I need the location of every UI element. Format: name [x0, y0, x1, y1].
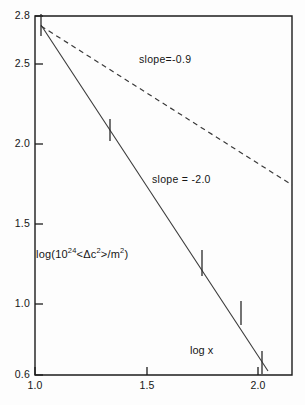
- annotation-slope-reference: slope=-0.9: [139, 53, 191, 65]
- axis-frame: [35, 16, 292, 375]
- y-tick-label-2.5: 2.5: [2, 57, 30, 69]
- y-axis-title-suffix: ): [124, 248, 128, 260]
- x-tick-label-2.0: 2.0: [244, 379, 272, 391]
- x-axis-title: log x: [190, 344, 213, 356]
- x-tick-label-1.0: 1.0: [21, 379, 49, 391]
- x-axis-ticks: [35, 367, 258, 375]
- y-axis-ticks: [35, 16, 43, 375]
- x-tick-label-1.5: 1.5: [133, 379, 161, 391]
- annotation-slope-measured: slope = -2.0: [152, 173, 211, 185]
- series-reference-line: [41, 26, 292, 185]
- figure-container: 2.8 2.5 2.0 1.5 1.0 0.6 1.0 1.5 2.0 slop…: [0, 0, 305, 405]
- y-tick-label-1.0: 1.0: [2, 297, 30, 309]
- y-axis-title-mid2: >/m: [101, 248, 120, 260]
- y-axis-title-exp-24: 24: [68, 246, 77, 255]
- x-axis-title-text: log x: [190, 344, 213, 356]
- y-tick-label-2.8: 2.8: [2, 9, 30, 21]
- series-measured-line: [41, 25, 268, 371]
- y-axis-title-mid: <Δc: [77, 248, 97, 260]
- y-axis-title: log(1024<Δc2>/m2): [36, 248, 128, 260]
- y-tick-label-1.5: 1.5: [2, 217, 30, 229]
- y-tick-label-2.0: 2.0: [2, 137, 30, 149]
- y-axis-title-prefix: log(10: [36, 248, 68, 260]
